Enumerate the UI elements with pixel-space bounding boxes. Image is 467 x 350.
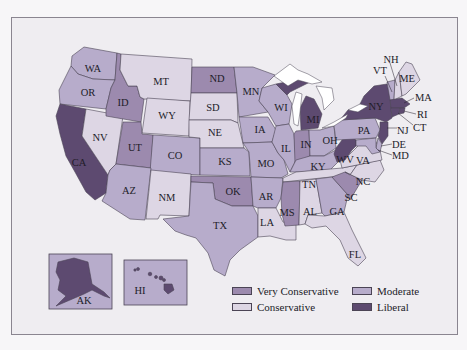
lake-huron xyxy=(316,86,334,110)
label-nm: NM xyxy=(159,192,177,203)
legend: Very Conservative Conservative Moderate … xyxy=(232,284,432,320)
label-ut: UT xyxy=(128,142,143,153)
label-tx: TX xyxy=(213,220,227,231)
label-sc: SC xyxy=(345,192,358,203)
label-ma: MA xyxy=(415,92,432,103)
label-ms: MS xyxy=(279,207,294,218)
label-al: AL xyxy=(303,206,317,217)
swatch-moderate xyxy=(352,287,372,295)
label-wi: WI xyxy=(274,102,288,113)
label-ak: AK xyxy=(76,295,92,306)
legend-label-very-conservative: Very Conservative xyxy=(257,285,339,297)
label-ne: NE xyxy=(208,127,222,138)
label-mn: MN xyxy=(243,86,260,97)
legend-item-liberal: Liberal xyxy=(352,300,409,314)
label-nv: NV xyxy=(92,132,108,143)
label-nc: NC xyxy=(356,176,371,187)
legend-label-conservative: Conservative xyxy=(257,301,315,313)
state-ct xyxy=(391,108,400,117)
leader-de xyxy=(381,144,392,146)
label-ny: NY xyxy=(368,101,384,112)
swatch-very-conservative xyxy=(232,287,252,295)
label-wv: WV xyxy=(336,154,354,165)
label-vt: VT xyxy=(373,65,388,76)
label-ri: RI xyxy=(417,109,428,120)
label-ks: KS xyxy=(218,156,232,167)
leader-ct xyxy=(398,113,413,125)
label-ok: OK xyxy=(225,186,241,197)
label-mi: MI xyxy=(307,114,320,125)
label-md: MD xyxy=(392,150,409,161)
label-ga: GA xyxy=(329,206,345,217)
label-nd: ND xyxy=(209,73,225,84)
label-de: DE xyxy=(392,139,406,150)
leader-ri xyxy=(404,111,416,114)
label-in: IN xyxy=(300,139,311,150)
state-ma xyxy=(390,98,410,108)
label-nh: NH xyxy=(383,54,399,65)
label-oh: OH xyxy=(322,135,338,146)
label-id: ID xyxy=(117,97,128,108)
swatch-liberal xyxy=(352,303,372,311)
label-fl: FL xyxy=(349,249,361,260)
label-az: AZ xyxy=(122,185,136,196)
label-hi: HI xyxy=(134,285,146,296)
label-me: ME xyxy=(399,73,415,84)
state-ny xyxy=(340,84,392,122)
label-ia: IA xyxy=(254,124,265,135)
label-va: VA xyxy=(356,155,370,166)
label-mt: MT xyxy=(153,76,169,87)
label-la: LA xyxy=(260,217,274,228)
label-ky: KY xyxy=(310,161,326,172)
label-or: OR xyxy=(81,87,96,98)
legend-label-moderate: Moderate xyxy=(377,285,419,297)
inset-hawaii xyxy=(124,260,187,305)
label-wa: WA xyxy=(85,63,102,74)
label-sd: SD xyxy=(206,102,220,113)
label-co: CO xyxy=(168,150,183,161)
legend-item-conservative: Conservative xyxy=(232,300,315,314)
legend-item-moderate: Moderate xyxy=(352,284,419,298)
state-ms xyxy=(281,181,300,226)
legend-label-liberal: Liberal xyxy=(377,301,409,313)
label-ct: CT xyxy=(413,122,427,133)
label-il: IL xyxy=(281,143,291,154)
label-wy: WY xyxy=(158,110,176,121)
label-pa: PA xyxy=(358,125,371,136)
legend-item-very-conservative: Very Conservative xyxy=(232,284,339,298)
label-ca: CA xyxy=(72,157,87,168)
label-nj: NJ xyxy=(397,125,409,136)
swatch-conservative xyxy=(232,303,252,311)
label-ar: AR xyxy=(259,191,274,202)
label-mo: MO xyxy=(258,158,275,169)
label-tn: TN xyxy=(302,179,316,190)
